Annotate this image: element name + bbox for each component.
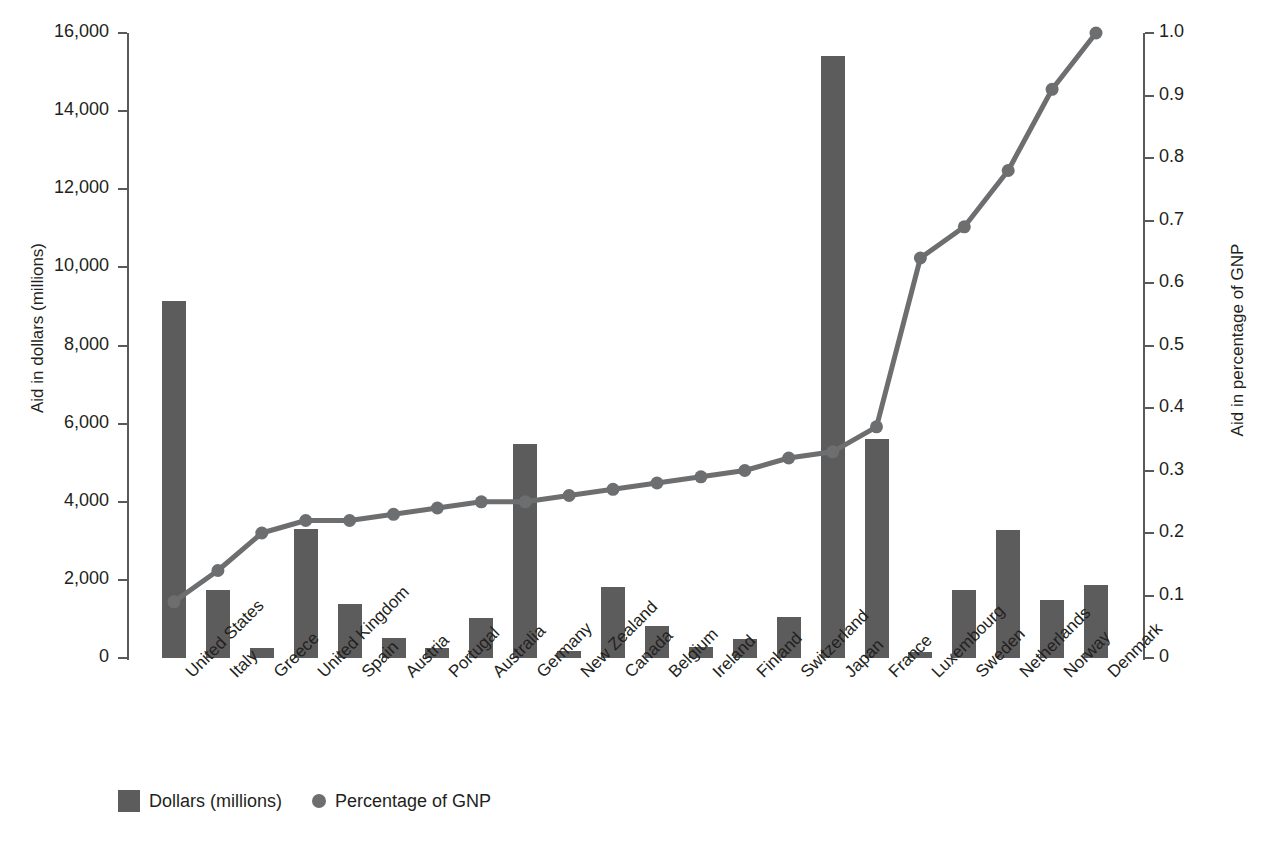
y-tick-right: [1145, 32, 1154, 34]
line-marker: [738, 464, 751, 477]
y-tick-label-right: 0.2: [1159, 521, 1249, 542]
legend-label-line: Percentage of GNP: [335, 791, 491, 812]
legend-circle-icon: [312, 794, 326, 808]
y-tick-left: [118, 110, 127, 112]
y-tick-label-right: 0.7: [1159, 209, 1249, 230]
legend-item-bars: Dollars (millions): [118, 790, 282, 812]
line-marker: [211, 564, 224, 577]
y-tick-label-right: 0.8: [1159, 146, 1249, 167]
line-marker: [475, 495, 488, 508]
y-tick-left: [118, 579, 127, 581]
y-tick-left: [118, 32, 127, 34]
y-tick-right: [1145, 407, 1154, 409]
line-marker: [607, 483, 620, 496]
y-tick-right: [1145, 345, 1154, 347]
chart-legend: Dollars (millions) Percentage of GNP: [118, 790, 491, 812]
chart-canvas: Aid in dollars (millions) Aid in percent…: [0, 0, 1270, 845]
line-path: [174, 33, 1096, 602]
line-marker: [387, 508, 400, 521]
y-tick-label-left: 8,000: [19, 334, 109, 355]
y-tick-right: [1145, 657, 1154, 659]
line-marker: [1090, 27, 1103, 40]
bar: [865, 439, 889, 658]
y-tick-left: [118, 657, 127, 659]
y-tick-label-right: 0: [1159, 646, 1249, 667]
line-marker: [343, 514, 356, 527]
y-tick-label-left: 10,000: [19, 255, 109, 276]
bar: [162, 301, 186, 658]
y-tick-label-left: 2,000: [19, 568, 109, 589]
y-tick-left: [118, 188, 127, 190]
y-tick-label-right: 0.9: [1159, 84, 1249, 105]
line-marker: [958, 220, 971, 233]
bar: [821, 56, 845, 658]
y-tick-right: [1145, 220, 1154, 222]
line-marker: [1002, 164, 1015, 177]
y-tick-right: [1145, 157, 1154, 159]
line-marker: [914, 252, 927, 265]
line-series: [0, 0, 1270, 845]
legend-square-icon: [118, 790, 140, 812]
y-tick-left: [118, 266, 127, 268]
y-tick-label-left: 12,000: [19, 177, 109, 198]
y-tick-right: [1145, 532, 1154, 534]
line-marker: [694, 470, 707, 483]
x-axis-label: Denmark: [1104, 619, 1167, 682]
y-tick-right: [1145, 470, 1154, 472]
y-tick-right: [1145, 95, 1154, 97]
y-tick-label-right: 0.4: [1159, 396, 1249, 417]
legend-label-bars: Dollars (millions): [149, 791, 282, 812]
y-tick-right: [1145, 595, 1154, 597]
line-marker: [651, 477, 664, 490]
y-tick-label-left: 4,000: [19, 490, 109, 511]
y-tick-left: [118, 501, 127, 503]
line-marker: [870, 420, 883, 433]
y-tick-label-right: 0.1: [1159, 584, 1249, 605]
line-marker: [431, 502, 444, 515]
y-tick-label-right: 1.0: [1159, 21, 1249, 42]
line-marker: [1046, 83, 1059, 96]
y-axis-title-left: Aid in dollars (millions): [28, 178, 48, 478]
y-tick-left: [118, 423, 127, 425]
y-tick-left: [118, 345, 127, 347]
y-axis-line-left: [127, 33, 129, 660]
y-tick-label-left: 16,000: [19, 21, 109, 42]
y-tick-right: [1145, 282, 1154, 284]
y-axis-line-right: [1143, 33, 1145, 660]
legend-item-line: Percentage of GNP: [312, 791, 491, 812]
y-tick-label-left: 14,000: [19, 99, 109, 120]
y-tick-label-right: 0.5: [1159, 334, 1249, 355]
y-tick-label-right: 0.6: [1159, 271, 1249, 292]
y-tick-label-left: 6,000: [19, 412, 109, 433]
y-tick-label-left: 0: [19, 646, 109, 667]
line-marker: [255, 527, 268, 540]
y-tick-label-right: 0.3: [1159, 459, 1249, 480]
line-marker: [563, 489, 576, 502]
line-marker: [782, 452, 795, 465]
line-marker: [299, 514, 312, 527]
